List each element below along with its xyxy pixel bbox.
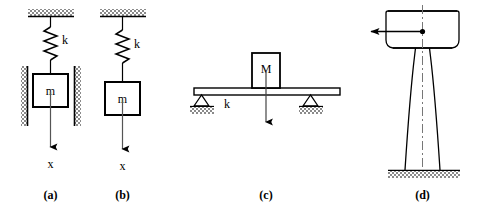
caption-b: (b) xyxy=(115,188,130,202)
caption-d: (d) xyxy=(415,188,430,202)
ceiling-support-b xyxy=(100,9,146,17)
ground-hatch-icon xyxy=(190,107,214,114)
caption-c: (c) xyxy=(259,188,272,202)
spring-constant-label-b: k xyxy=(134,37,140,51)
center-node-icon xyxy=(420,29,425,34)
left-guide-wall-hatch-icon xyxy=(21,66,27,126)
ceiling-support-a xyxy=(28,9,74,17)
ceiling-hatch-icon xyxy=(28,9,74,16)
ceiling-hatch-icon xyxy=(100,9,146,16)
beam-rect xyxy=(194,88,340,95)
ground-hatch-icon xyxy=(299,107,323,114)
ground-hatch-icon-d xyxy=(388,171,460,178)
right-guide-wall-hatch-icon xyxy=(75,66,81,126)
beam-c xyxy=(194,88,340,95)
vibration-systems-figure: k m x (a) k xyxy=(0,0,489,215)
displacement-label-b: x xyxy=(120,159,126,173)
stiffness-label-c: k xyxy=(224,97,230,111)
displacement-label-a: x xyxy=(48,157,54,171)
caption-a: (a) xyxy=(44,188,58,202)
spring-constant-label-a: k xyxy=(62,33,68,47)
